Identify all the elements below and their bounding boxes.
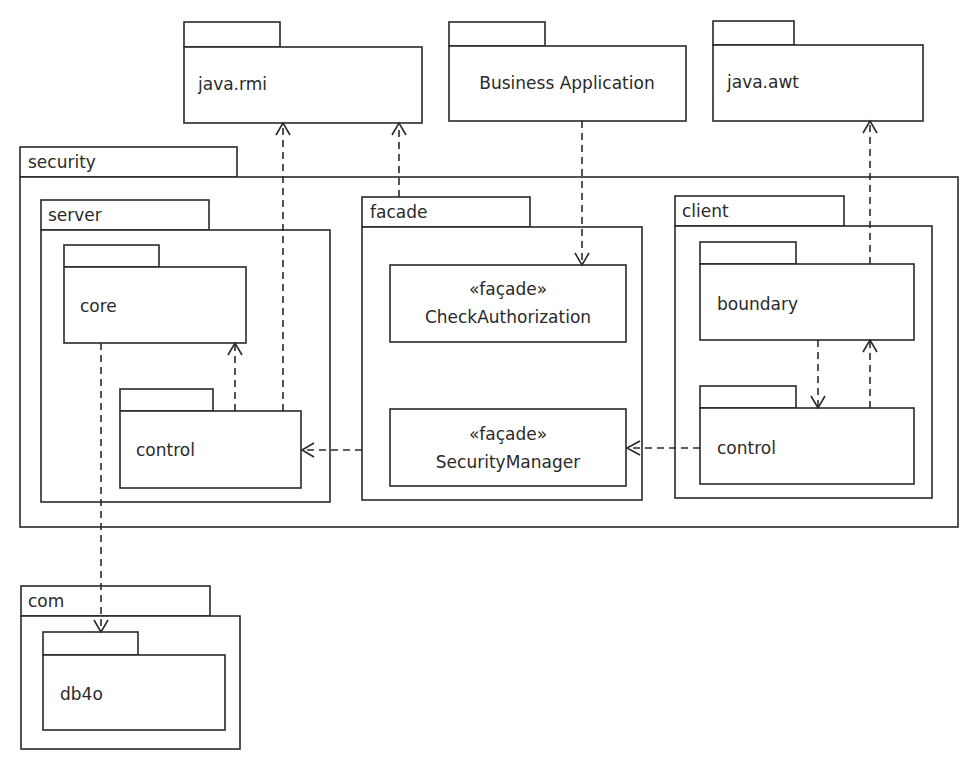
package-label: java.awt [726, 72, 799, 92]
package-tab [713, 21, 794, 45]
package-label: server [48, 205, 102, 225]
package-label: java.rmi [197, 74, 267, 94]
package-tab [64, 245, 159, 267]
package-tab [120, 389, 213, 411]
class-stereotype: «façade» [469, 279, 547, 299]
package-label: client [682, 201, 729, 221]
class-check-authorization: «façade» CheckAuthorization [390, 265, 626, 342]
class-security-manager: «façade» SecurityManager [390, 409, 626, 486]
package-label: facade [370, 202, 427, 222]
package-label: control [717, 438, 776, 458]
package-label: core [80, 296, 117, 316]
package-label: boundary [717, 294, 798, 314]
package-tab [43, 632, 138, 655]
package-label: db4o [60, 684, 103, 704]
package-tab [184, 22, 280, 47]
class-name: CheckAuthorization [425, 307, 591, 327]
class-name: SecurityManager [436, 452, 580, 472]
package-label: control [136, 440, 195, 460]
package-tab [449, 22, 545, 46]
package-label: Business Application [479, 73, 654, 93]
package-tab [700, 386, 796, 408]
package-label: com [28, 591, 64, 611]
package-diagram: java.rmi Business Application java.awt s… [0, 0, 973, 770]
package-tab [700, 242, 796, 264]
package-java-rmi: java.rmi [184, 22, 422, 123]
package-java-awt: java.awt [713, 21, 923, 121]
class-body [390, 409, 626, 486]
package-business-application: Business Application [449, 22, 686, 121]
class-body [390, 265, 626, 342]
class-stereotype: «façade» [469, 424, 547, 444]
package-label: security [28, 152, 96, 172]
